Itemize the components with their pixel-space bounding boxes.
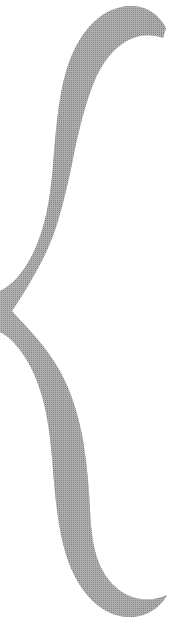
curly-brace-icon: {: [0, 0, 190, 638]
glyph-canvas: {: [0, 0, 190, 638]
page-background: [0, 0, 190, 638]
